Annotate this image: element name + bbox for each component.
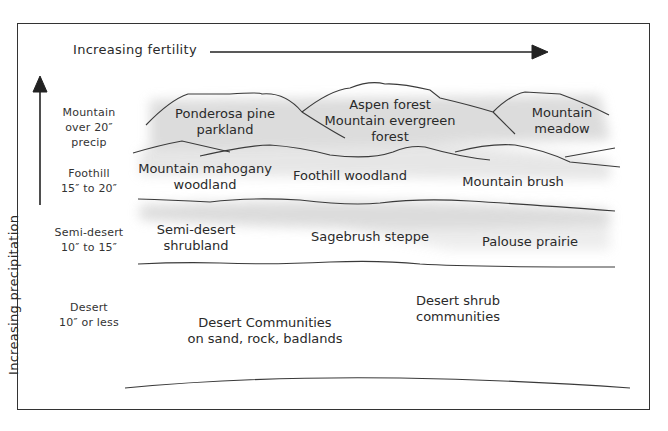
x-axis-label: Increasing fertility bbox=[73, 42, 197, 57]
community-palouse-prairie: Palouse prairie bbox=[482, 234, 578, 250]
community-semi-desert-shrubland: Semi-desert shrubland bbox=[157, 222, 236, 254]
community-mountain-meadow: Mountain meadow bbox=[532, 105, 593, 137]
zone-mountain: Mountain over 20″ precip bbox=[63, 105, 116, 150]
community-mountain-brush: Mountain brush bbox=[462, 174, 564, 190]
zone-foothill: Foothill 15″ to 20″ bbox=[61, 166, 117, 196]
y-axis-label: Increasing precipitation bbox=[6, 215, 21, 375]
community-aspen-evergreen: Aspen forest Mountain evergreen forest bbox=[324, 97, 455, 145]
community-desert-shrub: Desert shrub communities bbox=[416, 293, 500, 325]
vegetation-zone-illustration bbox=[0, 0, 668, 431]
precipitation-arrow bbox=[33, 76, 47, 205]
community-desert-sand-rock: Desert Communities on sand, rock, badlan… bbox=[187, 315, 342, 347]
community-ponderosa-pine: Ponderosa pine parkland bbox=[175, 106, 275, 138]
community-mountain-mahogany: Mountain mahogany woodland bbox=[138, 161, 272, 193]
community-foothill-woodland: Foothill woodland bbox=[293, 168, 407, 184]
zone-semi-desert: Semi-desert 10″ to 15″ bbox=[55, 225, 124, 255]
community-sagebrush-steppe: Sagebrush steppe bbox=[311, 229, 429, 245]
fertility-arrow bbox=[210, 45, 548, 59]
zone-desert: Desert 10″ or less bbox=[59, 300, 119, 330]
